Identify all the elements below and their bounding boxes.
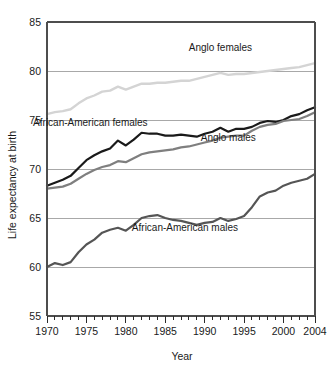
life-expectancy-chart: 55606570758085 1970197519801985199019952…	[0, 0, 333, 365]
y-tick-label-70: 70	[29, 163, 41, 175]
y-tick-label-55: 55	[29, 310, 41, 322]
x-axis-title: Year	[171, 350, 193, 362]
series-label-african-american-females: African-American females	[33, 117, 147, 128]
y-axis-title: Life expectancy at birth	[6, 131, 18, 239]
x-tick-label-2004: 2004	[303, 325, 327, 337]
y-tick-label-65: 65	[29, 212, 41, 224]
x-tick-label-1970: 1970	[35, 325, 59, 337]
chart-canvas: 55606570758085 1970197519801985199019952…	[0, 0, 333, 365]
x-tick-label-2000: 2000	[272, 325, 296, 337]
x-tick-label-1980: 1980	[114, 325, 138, 337]
series-label-anglo-females: Anglo females	[189, 42, 252, 53]
x-tick-label-1985: 1985	[154, 325, 178, 337]
y-tick-label-60: 60	[29, 261, 41, 273]
x-tick-label-1995: 1995	[232, 325, 256, 337]
series-label-anglo-males: Anglo males	[201, 132, 256, 143]
chart-background	[0, 0, 333, 365]
x-tick-label-1975: 1975	[75, 325, 99, 337]
x-tick-label-1990: 1990	[193, 325, 217, 337]
y-tick-label-80: 80	[29, 65, 41, 77]
series-label-african-american-males: African-American males	[132, 222, 238, 233]
y-tick-label-85: 85	[29, 16, 41, 28]
